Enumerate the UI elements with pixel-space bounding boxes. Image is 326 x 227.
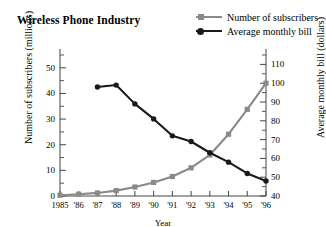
- x-axis-tick-label: '90: [149, 200, 159, 210]
- data-point-marker: [95, 84, 100, 89]
- y-axis-right-tick-label: 100: [271, 78, 285, 88]
- data-point-marker: [170, 174, 175, 179]
- y-axis-right-tick-label: 60: [271, 153, 281, 163]
- data-point-marker: [207, 150, 212, 155]
- y-axis-left-tick-label: 50: [46, 63, 56, 73]
- data-point-marker: [132, 101, 137, 106]
- data-point-marker: [76, 192, 81, 197]
- x-axis-tick-label: '92: [186, 200, 196, 210]
- x-axis-tick-label: '93: [205, 200, 215, 210]
- chart-figure: Wireless Phone Industry Number of subscr…: [0, 0, 326, 227]
- data-point-marker: [188, 165, 193, 170]
- data-point-marker: [188, 139, 193, 144]
- data-point-marker: [151, 180, 156, 185]
- data-point-marker: [151, 116, 156, 121]
- series-line: [97, 85, 266, 181]
- y-axis-right-tick-label: 50: [271, 172, 281, 182]
- data-point-marker: [226, 132, 231, 137]
- y-axis-right-tick-label: 40: [271, 191, 281, 201]
- data-point-marker: [114, 188, 119, 193]
- data-point-marker: [170, 133, 175, 138]
- data-point-marker: [263, 81, 268, 86]
- series-line: [60, 83, 266, 195]
- data-point-marker: [132, 184, 137, 189]
- data-point-marker: [113, 82, 118, 87]
- plot-area: 010203040504050607080901001101985'86'87'…: [0, 0, 326, 227]
- x-axis-tick-label: '91: [167, 200, 177, 210]
- y-axis-right-tick-label: 70: [271, 135, 281, 145]
- series-monthly-bill: [95, 82, 269, 183]
- x-axis-tick-label: '96: [261, 200, 271, 210]
- data-point-marker: [245, 107, 250, 112]
- data-point-marker: [57, 193, 62, 198]
- y-axis-right-tick-label: 90: [271, 97, 281, 107]
- y-axis-left-tick-label: 20: [46, 140, 56, 150]
- x-axis-tick-label: 1985: [52, 200, 69, 210]
- chart-canvas: 010203040504050607080901001101985'86'87'…: [0, 0, 326, 227]
- data-point-marker: [226, 159, 231, 164]
- x-axis-tick-label: '88: [111, 200, 121, 210]
- y-axis-right-tick-label: 80: [271, 116, 281, 126]
- y-axis-left-tick-label: 30: [46, 114, 56, 124]
- x-axis-tick-label: '95: [242, 200, 252, 210]
- data-point-marker: [245, 171, 250, 176]
- x-axis-tick-label: '86: [74, 200, 84, 210]
- y-axis-right-tick-label: 110: [271, 59, 285, 69]
- x-axis-tick-label: '87: [92, 200, 102, 210]
- data-point-marker: [95, 190, 100, 195]
- x-axis-tick-label: '89: [130, 200, 140, 210]
- y-axis-left-tick-label: 10: [46, 165, 56, 175]
- data-point-marker: [263, 178, 268, 183]
- series-subscribers: [57, 81, 268, 198]
- x-axis-tick-label: '94: [224, 200, 235, 210]
- y-axis-left-tick-label: 40: [46, 88, 56, 98]
